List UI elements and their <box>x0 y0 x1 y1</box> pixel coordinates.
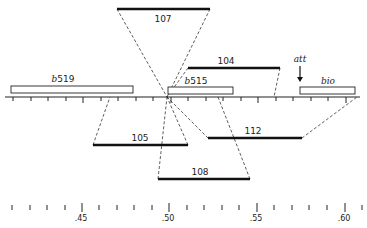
att-label: att <box>294 54 307 64</box>
projection-line <box>167 97 208 138</box>
genetic-map-diagram: b519b515bio 107104105112108 att .45.50.5… <box>0 0 367 228</box>
projection-line <box>93 97 110 145</box>
b515-label: b515 <box>185 76 208 86</box>
scale-label: .50 <box>162 214 175 223</box>
scale-label: .45 <box>75 214 88 223</box>
scale-label: .60 <box>338 214 351 223</box>
projection-line <box>274 68 280 97</box>
segment-105-label: 105 <box>131 133 148 143</box>
projection-line <box>302 97 357 138</box>
projection-line <box>158 97 167 179</box>
region-boxes: b519b515bio <box>11 74 355 94</box>
chromosome-axis <box>5 97 360 103</box>
b515-box <box>168 87 233 94</box>
scale-label: .55 <box>250 214 263 223</box>
b519-box <box>11 86 133 93</box>
segment-112-label: 112 <box>244 126 261 136</box>
bio-box <box>300 87 355 94</box>
bio-label: bio <box>321 76 336 86</box>
att-arrow-icon <box>297 77 303 82</box>
segment-104-label: 104 <box>217 56 234 66</box>
att-site-marker: att <box>294 54 307 82</box>
map-scale: .45.50.55.60 <box>12 203 362 223</box>
b519-label: b519 <box>52 74 75 84</box>
segment-107-label: 107 <box>154 14 171 24</box>
segment-108-label: 108 <box>191 167 208 177</box>
projection-line <box>167 97 188 145</box>
